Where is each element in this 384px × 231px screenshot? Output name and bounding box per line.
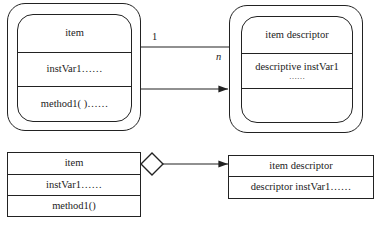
aggregation-diamond-icon (141, 153, 163, 175)
multiplicity-many: n (216, 51, 221, 62)
top-item-class-box: item instVar1…… method1( )…… (17, 14, 132, 122)
class-methods (242, 88, 352, 122)
class-name: item (8, 153, 140, 174)
class-name: item descriptor (242, 17, 352, 53)
bottom-descriptor-class-box: item descriptor descriptor instVar1…… (228, 155, 374, 199)
multiplicity-one: 1 (152, 31, 157, 42)
class-attributes: descriptor instVar1…… (229, 176, 373, 198)
class-attributes: descriptive instVar1 …… (242, 53, 352, 88)
class-attributes: instVar1…… (8, 174, 140, 195)
class-methods: method1( )…… (18, 86, 131, 121)
attribute-line-2: …… (289, 73, 305, 81)
class-name: item descriptor (229, 156, 373, 176)
class-name: item (18, 15, 131, 52)
top-descriptor-class-box: item descriptor descriptive instVar1 …… (241, 16, 353, 123)
class-attributes: instVar1…… (18, 52, 131, 86)
class-methods: method1() (8, 195, 140, 216)
bottom-item-class-box: item instVar1…… method1() (7, 152, 141, 217)
